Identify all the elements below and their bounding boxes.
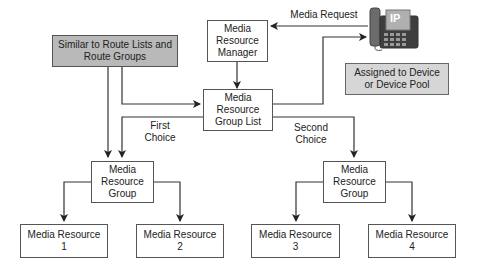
media-resource-3-box: Media Resource 3: [251, 224, 340, 258]
similar-to-route-lists-note: Similar to Route Lists and Route Groups: [52, 35, 178, 67]
media-resource-group-list-box: Media Resource Group List: [203, 89, 273, 131]
phone-ip-badge: IP: [390, 12, 400, 24]
media-resource-2-box: Media Resource 2: [136, 224, 224, 258]
media-resource-group-left-box: Media Resource Group: [91, 161, 154, 203]
first-choice-label: First Choice: [140, 120, 180, 144]
media-resource-4-box: Media Resource 4: [368, 224, 456, 258]
media-request-label: Media Request: [280, 9, 368, 21]
assigned-to-device-note: Assigned to Device or Device Pool: [345, 63, 449, 95]
diagram-canvas: IP Media Request First Choice Second Cho…: [0, 0, 478, 272]
second-choice-label: Second Choice: [288, 122, 334, 146]
media-resource-manager-box: Media Resource Manager: [207, 20, 268, 62]
media-resource-1-box: Media Resource 1: [20, 224, 108, 258]
media-resource-group-right-box: Media Resource Group: [323, 161, 386, 203]
ip-phone-icon: IP: [368, 6, 420, 52]
